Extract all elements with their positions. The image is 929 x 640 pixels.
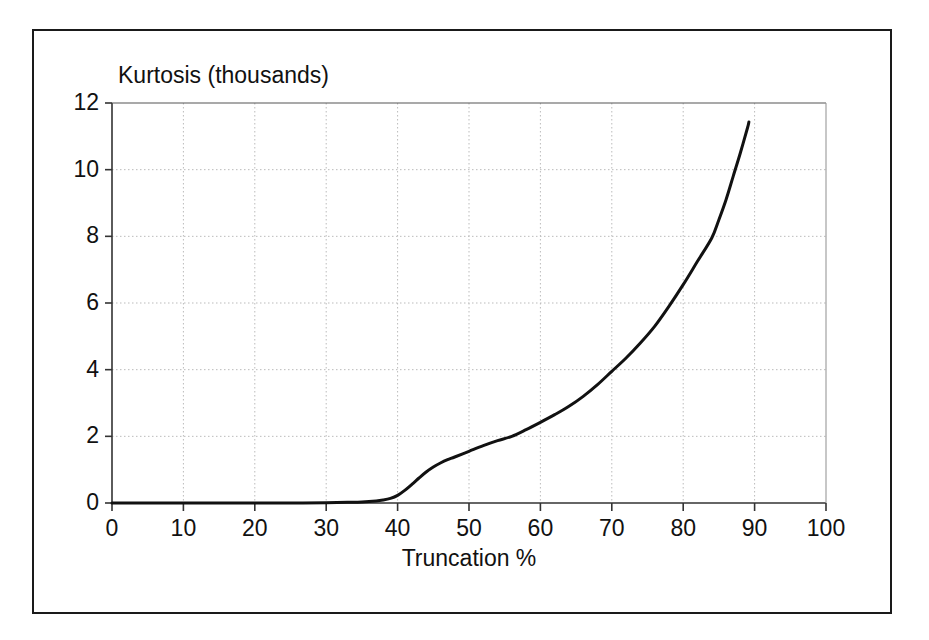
y-tick-label: 8	[53, 224, 99, 247]
x-tick-label: 0	[82, 517, 142, 540]
x-tick-label: 50	[439, 517, 499, 540]
y-tick-label: 10	[53, 158, 99, 181]
x-tick-label: 90	[725, 517, 785, 540]
data-series-line	[112, 122, 749, 503]
x-tick-label: 10	[153, 517, 213, 540]
x-axis-label: Truncation %	[112, 545, 826, 572]
x-tick-label: 60	[510, 517, 570, 540]
data-series-group	[112, 122, 749, 503]
x-tick-label: 20	[225, 517, 285, 540]
y-tick-label: 12	[53, 91, 99, 114]
y-tick-label: 4	[53, 358, 99, 381]
x-tick-label: 30	[296, 517, 356, 540]
figure-container: Kurtosis (thousands) 121086420 010203040…	[0, 0, 929, 640]
x-tick-label: 100	[796, 517, 856, 540]
y-tick-label: 0	[53, 491, 99, 514]
x-tick-label: 70	[582, 517, 642, 540]
y-tick-label: 6	[53, 291, 99, 314]
axis-ticks	[105, 103, 826, 511]
x-tick-label: 40	[368, 517, 428, 540]
chart-plot-area	[0, 0, 929, 640]
gridlines	[112, 103, 826, 503]
x-tick-label: 80	[653, 517, 713, 540]
y-tick-label: 2	[53, 424, 99, 447]
